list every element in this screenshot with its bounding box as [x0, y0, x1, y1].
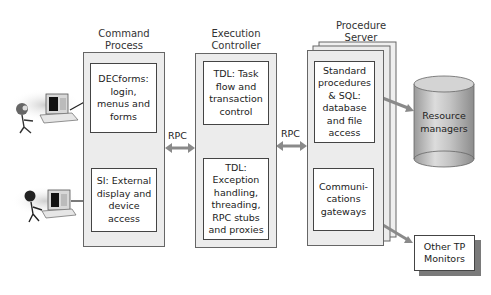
label-line: Other TP [424, 241, 466, 254]
user-terminal-icon [11, 186, 79, 222]
label-line: Monitors [424, 253, 466, 266]
title-line: Server [320, 32, 402, 44]
execution-controller-title: Execution Controller [195, 28, 277, 52]
title-line: Execution [195, 28, 277, 40]
command-process-title: Command Process [83, 28, 165, 52]
module-line: cations [319, 193, 368, 206]
label-line: managers [414, 123, 474, 136]
module-line: and proxies [208, 224, 263, 237]
rpc-label-right: RPC [281, 128, 300, 139]
rpc-arrow-left [165, 143, 195, 153]
module-line: control [209, 106, 263, 119]
standard-procedures-module: Standard procedures & SQL: database and … [314, 61, 375, 143]
module-line: menus and [97, 98, 150, 111]
module-line: TDL: Task [209, 68, 263, 81]
module-line: access [318, 127, 371, 140]
module-line: database [318, 102, 371, 115]
module-line: Standard [318, 65, 371, 78]
module-line: device [97, 200, 152, 213]
rpc-arrow-right [276, 141, 307, 151]
procedure-server-title: Procedure Server [320, 20, 402, 44]
module-line: RPC stubs [208, 212, 263, 225]
module-line: and file [318, 115, 371, 128]
module-line: & SQL: [318, 90, 371, 103]
module-line: Communi- [319, 181, 368, 194]
tdl-task-flow-module: TDL: Task flow and transaction control [203, 61, 269, 125]
module-line: Exception [208, 174, 263, 187]
tdl-exception-module: TDL: Exception handling, threading, RPC … [203, 158, 269, 240]
title-line: Process [83, 40, 165, 52]
module-line: display and [97, 188, 152, 201]
title-line: Controller [195, 40, 277, 52]
decforms-module: DECforms: login, menus and forms [90, 63, 157, 133]
module-line: forms [97, 111, 150, 124]
module-line: handling, [208, 187, 263, 200]
module-line: transaction [209, 93, 263, 106]
module-line: gateways [319, 206, 368, 219]
user-workstation-icon [9, 89, 81, 133]
module-line: TDL: [208, 162, 263, 175]
module-line: access [97, 213, 152, 226]
title-line: Procedure [320, 20, 402, 32]
label-line: Resource [414, 110, 474, 123]
module-line: procedures [318, 77, 371, 90]
si-module: SI: External display and device access [91, 168, 157, 232]
module-line: SI: External [97, 175, 152, 188]
module-line: flow and [209, 81, 263, 94]
resource-managers-label: Resource managers [414, 110, 474, 135]
module-line: threading, [208, 199, 263, 212]
module-line: DECforms: [97, 73, 150, 86]
rpc-label-left: RPC [168, 130, 187, 141]
title-line: Command [83, 28, 165, 40]
module-line: login, [97, 86, 150, 99]
communications-gateways-module: Communi- cations gateways [313, 168, 374, 231]
other-tp-monitors-box: Other TP Monitors [414, 235, 475, 271]
